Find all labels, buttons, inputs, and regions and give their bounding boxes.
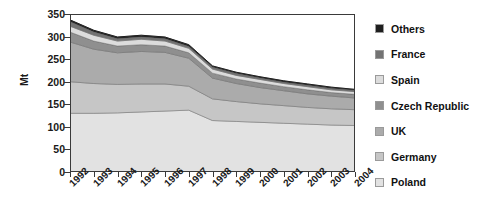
legend-item-germany[interactable]: Germany — [375, 144, 491, 170]
legend-swatch-icon — [375, 24, 384, 33]
legend-item-czech-republic[interactable]: Czech Republic — [375, 93, 491, 119]
legend-item-label: Germany — [391, 151, 437, 163]
y-tick-label: 100 — [31, 122, 65, 132]
y-tick-label: 250 — [31, 54, 65, 64]
legend-item-spain[interactable]: Spain — [375, 67, 491, 93]
y-tick-label: 300 — [31, 32, 65, 42]
legend-swatch-icon — [375, 101, 384, 110]
legend-swatch-icon — [375, 50, 384, 59]
plot-area — [70, 14, 355, 172]
legend-item-label: Poland — [391, 176, 426, 188]
legend-swatch-icon — [375, 152, 384, 161]
legend-item-label: Others — [391, 23, 425, 35]
legend-item-uk[interactable]: UK — [375, 118, 491, 144]
legend-item-others[interactable]: Others — [375, 16, 491, 42]
y-tick-label: 150 — [31, 99, 65, 109]
x-tick-label: 2004 — [352, 165, 376, 189]
y-axis-tick-labels: 350300250200150100500 — [25, 0, 65, 221]
legend-item-label: UK — [391, 125, 406, 137]
legend-item-label: Czech Republic — [391, 100, 469, 112]
legend-swatch-icon — [375, 127, 384, 136]
y-tick-label: 0 — [31, 167, 65, 177]
y-tick-label: 350 — [31, 9, 65, 19]
legend-item-france[interactable]: France — [375, 42, 491, 68]
legend-swatch-icon — [375, 75, 384, 84]
chart-container: Mt 350300250200150100500 199219931994199… — [0, 0, 491, 221]
chart-legend: OthersFranceSpainCzech RepublicUKGermany… — [375, 16, 491, 195]
legend-item-label: France — [391, 48, 425, 60]
legend-item-label: Spain — [391, 74, 420, 86]
legend-swatch-icon — [375, 178, 384, 187]
legend-item-poland[interactable]: Poland — [375, 170, 491, 196]
stacked-area-svg — [70, 14, 355, 172]
y-tick-label: 200 — [31, 77, 65, 87]
y-tick-label: 50 — [31, 144, 65, 154]
